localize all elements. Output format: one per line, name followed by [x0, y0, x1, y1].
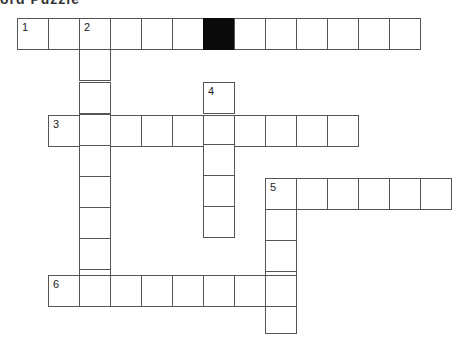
crossword-cell[interactable] — [79, 176, 111, 208]
crossword-cell[interactable] — [141, 275, 173, 307]
crossword-cell[interactable]: 4 — [203, 82, 235, 114]
crossword-cell[interactable] — [203, 115, 235, 147]
crossword-cell[interactable] — [141, 115, 173, 147]
crossword-cell[interactable] — [234, 275, 266, 307]
crossword-cell[interactable] — [234, 115, 266, 147]
clue-number: 5 — [270, 181, 276, 193]
crossword-cell[interactable]: 6 — [48, 275, 80, 307]
crossword-cell[interactable] — [358, 178, 390, 210]
crossword-cell[interactable] — [265, 275, 297, 307]
crossword-cell[interactable] — [79, 238, 111, 270]
crossword-cell[interactable] — [203, 275, 235, 307]
crossword-cell[interactable] — [79, 275, 111, 307]
crossword-cell[interactable] — [79, 207, 111, 239]
crossword-cell[interactable] — [141, 18, 173, 50]
crossword-cell[interactable] — [327, 18, 359, 50]
clue-number: 4 — [208, 85, 214, 97]
crossword-cell[interactable] — [265, 209, 297, 241]
crossword-cell[interactable] — [389, 18, 421, 50]
crossword-cell[interactable] — [172, 275, 204, 307]
crossword-cell[interactable] — [265, 18, 297, 50]
crossword-cell[interactable]: 2 — [79, 18, 111, 50]
clue-number: 1 — [22, 21, 28, 33]
crossword-cell[interactable] — [327, 178, 359, 210]
crossword-cell[interactable] — [79, 49, 111, 81]
crossword-cell[interactable] — [296, 115, 328, 147]
crossword-cell[interactable] — [79, 82, 111, 114]
crossword-cell[interactable] — [327, 115, 359, 147]
black-square — [203, 18, 235, 50]
crossword-cell[interactable] — [172, 18, 204, 50]
crossword-cell[interactable] — [48, 18, 80, 50]
crossword-cell[interactable] — [296, 18, 328, 50]
crossword-cell[interactable] — [172, 115, 204, 147]
clue-number: 3 — [53, 118, 59, 130]
crossword-cell[interactable]: 3 — [48, 115, 80, 147]
crossword-cell[interactable] — [110, 275, 142, 307]
crossword-cell[interactable] — [79, 114, 111, 146]
crossword-cell[interactable] — [79, 145, 111, 177]
clue-number: 2 — [84, 21, 90, 33]
crossword-cell[interactable] — [110, 115, 142, 147]
crossword-cell[interactable] — [203, 175, 235, 207]
crossword-cell[interactable] — [203, 206, 235, 238]
crossword-grid: 123456 — [0, 0, 466, 353]
crossword-cell[interactable] — [265, 115, 297, 147]
crossword-cell[interactable] — [110, 18, 142, 50]
crossword-cell[interactable] — [203, 144, 235, 176]
crossword-cell[interactable]: 5 — [265, 178, 297, 210]
crossword-cell[interactable] — [420, 178, 452, 210]
crossword-cell[interactable] — [389, 178, 421, 210]
crossword-cell[interactable] — [265, 240, 297, 272]
crossword-cell[interactable] — [234, 18, 266, 50]
crossword-cell[interactable]: 1 — [17, 18, 49, 50]
clue-number: 6 — [53, 278, 59, 290]
crossword-cell[interactable] — [296, 178, 328, 210]
crossword-cell[interactable] — [358, 18, 390, 50]
